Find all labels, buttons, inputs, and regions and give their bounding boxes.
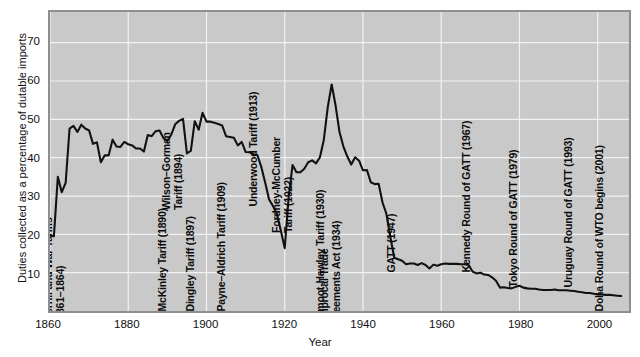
x-axis-tick-labels: 18601880190019201940196019802000	[0, 0, 640, 357]
x-tick-1960: 1960	[429, 318, 455, 330]
tariff-history-chart: Duties collected as a percentage of duta…	[0, 0, 640, 357]
x-tick-1980: 1980	[508, 318, 534, 330]
x-tick-1920: 1920	[272, 318, 298, 330]
x-tick-1940: 1940	[350, 318, 376, 330]
x-tick-2000: 2000	[587, 318, 613, 330]
x-tick-1880: 1880	[114, 318, 140, 330]
x-axis-title: Year	[0, 336, 640, 348]
x-tick-1900: 1900	[193, 318, 219, 330]
x-tick-1860: 1860	[35, 318, 61, 330]
